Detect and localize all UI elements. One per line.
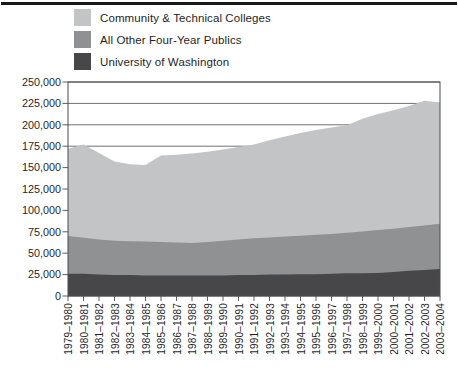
svg-text:2001–2002: 2001–2002 bbox=[404, 303, 415, 355]
svg-text:1984–1985: 1984–1985 bbox=[141, 303, 152, 355]
svg-text:2002–2003: 2002–2003 bbox=[420, 303, 431, 355]
svg-text:125,000: 125,000 bbox=[22, 183, 61, 195]
x-axis-ticks bbox=[68, 296, 440, 301]
svg-text:1981–1982: 1981–1982 bbox=[94, 303, 105, 355]
y-axis-ticks bbox=[63, 82, 69, 296]
svg-text:1997–1998: 1997–1998 bbox=[342, 303, 353, 355]
svg-text:25,000: 25,000 bbox=[28, 268, 61, 280]
svg-text:1996–1997: 1996–1997 bbox=[327, 303, 338, 355]
svg-text:2003–2004: 2003–2004 bbox=[435, 303, 446, 355]
svg-text:1993–1994: 1993–1994 bbox=[280, 303, 291, 355]
svg-text:1998–1999: 1998–1999 bbox=[358, 303, 369, 355]
svg-text:225,000: 225,000 bbox=[22, 97, 61, 109]
svg-text:1983–1984: 1983–1984 bbox=[125, 303, 136, 355]
svg-text:2000–2001: 2000–2001 bbox=[389, 303, 400, 355]
svg-text:1980–1981: 1980–1981 bbox=[79, 303, 90, 355]
enrollment-stacked-area-chart: 025,00050,00075,000100,000125,000150,000… bbox=[0, 0, 458, 385]
stacked-areas bbox=[68, 101, 440, 296]
svg-text:175,000: 175,000 bbox=[22, 140, 61, 152]
svg-text:1999–2000: 1999–2000 bbox=[373, 303, 384, 355]
svg-text:1995–1996: 1995–1996 bbox=[311, 303, 322, 355]
svg-text:1987–1988: 1987–1988 bbox=[187, 303, 198, 355]
svg-text:75,000: 75,000 bbox=[28, 226, 61, 238]
svg-text:1985–1986: 1985–1986 bbox=[156, 303, 167, 355]
svg-text:1982–1983: 1982–1983 bbox=[110, 303, 121, 355]
svg-text:50,000: 50,000 bbox=[28, 247, 61, 259]
svg-text:1979–1980: 1979–1980 bbox=[63, 303, 74, 355]
svg-text:1991–1992: 1991–1992 bbox=[249, 303, 260, 355]
svg-text:1990–1991: 1990–1991 bbox=[234, 303, 245, 355]
svg-text:0: 0 bbox=[55, 290, 61, 302]
svg-text:100,000: 100,000 bbox=[22, 204, 61, 216]
svg-text:200,000: 200,000 bbox=[22, 119, 61, 131]
svg-text:1994–1995: 1994–1995 bbox=[296, 303, 307, 355]
svg-text:150,000: 150,000 bbox=[22, 161, 61, 173]
x-axis-labels: 1979–19801980–19811981–19821982–19831983… bbox=[63, 303, 446, 355]
y-axis-labels: 025,00050,00075,000100,000125,000150,000… bbox=[22, 76, 61, 302]
svg-text:1986–1987: 1986–1987 bbox=[172, 303, 183, 355]
svg-text:1988–1989: 1988–1989 bbox=[203, 303, 214, 355]
svg-text:1992–1993: 1992–1993 bbox=[265, 303, 276, 355]
svg-text:250,000: 250,000 bbox=[22, 76, 61, 88]
svg-text:1989–1990: 1989–1990 bbox=[218, 303, 229, 355]
